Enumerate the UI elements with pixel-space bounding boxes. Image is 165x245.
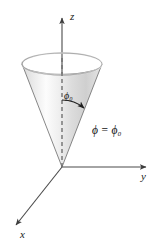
y-axis-label: y	[140, 170, 146, 182]
surface-equation-label: ϕ = ϕ₀	[92, 124, 121, 137]
x-axis-label: x	[19, 228, 25, 240]
cone-spherical-coordinate-diagram: z y x ϕ₀ ϕ = ϕ₀	[0, 0, 165, 245]
angle-label-phi-zero: ϕ₀	[64, 90, 73, 101]
y-axis: y	[62, 167, 146, 182]
x-axis-line	[16, 167, 62, 225]
x-axis: x	[16, 167, 62, 240]
z-axis-label: z	[69, 10, 75, 22]
